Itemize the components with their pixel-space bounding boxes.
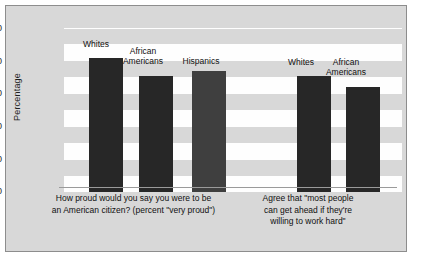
- y-tick-60: 60: [0, 89, 2, 98]
- y-tick-20: 20: [0, 155, 2, 164]
- caption-line: an American citizen? (percent "very prou…: [46, 205, 221, 217]
- bar-group1-african-americans: [139, 76, 173, 192]
- bar-label-line: Hispanics: [163, 56, 239, 66]
- gridline-100: [64, 28, 402, 29]
- chart-figure: 100 80 60 40 20 0 Percentage: [0, 0, 421, 263]
- y-tick-0: 0: [0, 187, 2, 196]
- y-axis-title: Percentage: [12, 67, 22, 127]
- caption-group2: Agree that "most people can get ahead if…: [228, 193, 388, 228]
- bar-label-group1-hispanics: Hispanics: [163, 56, 239, 66]
- bar-label-group2-african-americans: African Americans: [316, 57, 376, 77]
- caption-line: willing to work hard": [228, 216, 388, 228]
- caption-line: can get ahead if they're: [228, 205, 388, 217]
- chart-frame: 100 80 60 40 20 0 Percentage: [5, 5, 407, 252]
- bar-group2-african-americans: [346, 87, 380, 192]
- y-axis-ticks: 100 80 60 40 20 0: [0, 1, 2, 263]
- bar-group1-whites: [89, 58, 123, 192]
- caption-line: How proud would you say you were to be: [46, 193, 221, 205]
- caption-line: Agree that "most people: [228, 193, 388, 205]
- y-tick-100: 100: [0, 24, 2, 33]
- bar-label-line: African: [316, 57, 376, 67]
- caption-group1: How proud would you say you were to be a…: [46, 193, 221, 216]
- bar-label-line: Americans: [316, 67, 376, 77]
- bar-group2-whites: [297, 76, 331, 192]
- x-axis-baseline: [59, 187, 397, 188]
- y-tick-40: 40: [0, 122, 2, 131]
- y-tick-80: 80: [0, 57, 2, 66]
- bar-label-line: African: [113, 46, 173, 56]
- bar-group1-hispanics: [192, 71, 226, 192]
